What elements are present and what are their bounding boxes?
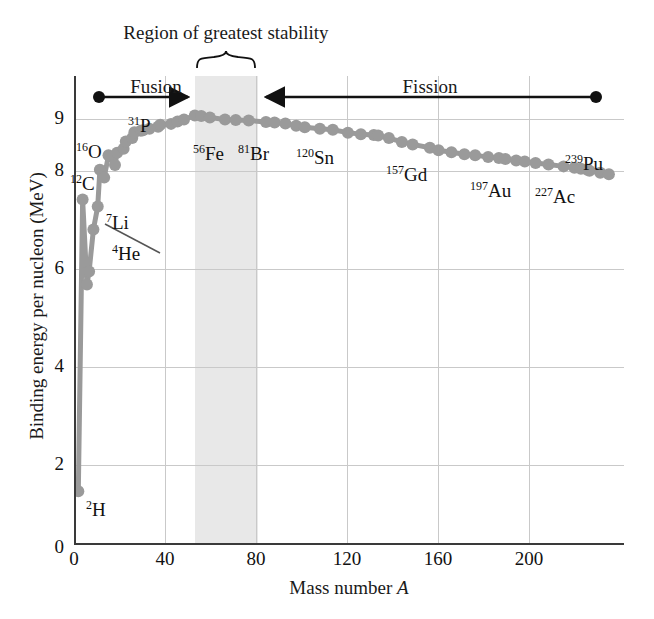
label-C12-mass: 12 — [70, 172, 82, 186]
label-Fe56-mass: 56 — [193, 142, 205, 156]
label-C12-symbol: C — [82, 173, 95, 194]
label-Gd157-mass: 157 — [386, 163, 404, 177]
label-Ac227-mass: 227 — [535, 185, 553, 199]
label-H2: 2H — [86, 498, 106, 521]
region-of-stability-label: Region of greatest stability — [80, 22, 372, 44]
plot-frame — [74, 76, 624, 545]
x-axis-title-text: Mass number — [289, 577, 397, 598]
label-Li7-symbol: Li — [112, 212, 129, 233]
x-tick-40: 40 — [140, 548, 190, 570]
x-tick-80: 80 — [231, 548, 281, 570]
label-Ac227: 227Ac — [535, 185, 575, 208]
label-Au197-symbol: Au — [488, 180, 511, 201]
label-Fe56-symbol: Fe — [205, 143, 224, 164]
label-Au197: 197Au — [470, 179, 511, 202]
label-O16-mass: 16 — [76, 140, 88, 154]
x-tick-120: 120 — [322, 548, 372, 570]
fission-label: Fission — [330, 76, 530, 98]
label-O16: 16O — [76, 140, 102, 163]
label-Pu239-mass: 239 — [565, 152, 583, 166]
label-Gd157: 157Gd — [386, 163, 427, 186]
label-Pu239-symbol: Pu — [583, 153, 603, 174]
label-P31-symbol: P — [140, 115, 151, 136]
label-Br81: 81Br — [238, 142, 269, 165]
label-Pu239: 239Pu — [565, 152, 603, 175]
label-Br81-mass: 81 — [238, 142, 250, 156]
label-He4-symbol: He — [118, 243, 140, 264]
label-H2-symbol: H — [92, 499, 106, 520]
label-Sn120-symbol: Sn — [314, 147, 334, 168]
label-O16-symbol: O — [88, 141, 102, 162]
label-Li7: 7Li — [106, 211, 129, 234]
stability-brace — [197, 51, 255, 68]
label-Gd157-symbol: Gd — [404, 164, 427, 185]
label-Sn120: 120Sn — [296, 146, 334, 169]
x-axis-title: Mass number A — [74, 577, 624, 599]
x-tick-160: 160 — [413, 548, 463, 570]
label-He4: 4He — [112, 242, 140, 265]
x-axis-title-variable: A — [397, 577, 409, 598]
label-Fe56: 56Fe — [193, 142, 224, 165]
label-Sn120-mass: 120 — [296, 146, 314, 160]
label-C12: 12C — [70, 172, 95, 195]
y-axis-title: Binding energy per nucleon (MeV) — [26, 106, 48, 506]
label-Br81-symbol: Br — [250, 143, 269, 164]
label-P31-mass: 31 — [128, 114, 140, 128]
fusion-label: Fusion — [96, 76, 216, 98]
x-tick-0: 0 — [49, 548, 99, 570]
label-P31: 31P — [128, 114, 151, 137]
label-Ac227-symbol: Ac — [553, 186, 575, 207]
x-tick-200: 200 — [504, 548, 554, 570]
label-Au197-mass: 197 — [470, 179, 488, 193]
binding-energy-figure: Region of greatest stability Fusion Fiss… — [0, 0, 654, 619]
